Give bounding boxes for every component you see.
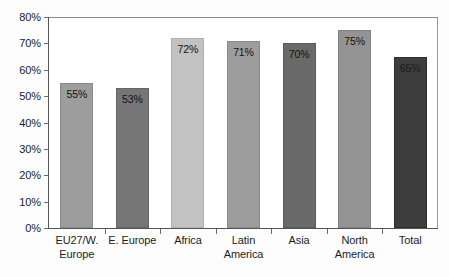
x-axis-line bbox=[48, 228, 438, 229]
x-axis-category-label-line: Africa bbox=[160, 234, 216, 248]
y-axis-tick-label: 0% bbox=[25, 222, 41, 234]
y-axis-labels: 0%10%20%30%40%50%60%70%80% bbox=[0, 10, 44, 234]
y-axis-tick-label: 20% bbox=[19, 169, 41, 181]
x-axis-category-label-line: Europe bbox=[49, 248, 105, 262]
y-axis-tick-mark bbox=[44, 149, 48, 150]
x-axis-category-label: LatinAmerica bbox=[216, 234, 272, 261]
x-axis-tick-mark bbox=[382, 229, 383, 234]
y-axis-tick-mark bbox=[44, 96, 48, 97]
y-axis-tick-label: 50% bbox=[19, 90, 41, 102]
x-axis-category-label-line: North bbox=[327, 234, 383, 248]
bar-value-label: 71% bbox=[228, 46, 259, 58]
bar[interactable]: 75% bbox=[338, 30, 371, 228]
bar[interactable]: 71% bbox=[227, 41, 260, 228]
bar-chart: 0%10%20%30%40%50%60%70%80% 55%53%72%71%7… bbox=[0, 0, 449, 277]
bar[interactable]: 72% bbox=[171, 38, 204, 228]
bar-value-label: 75% bbox=[339, 35, 370, 47]
bar-slot: 70% bbox=[271, 17, 327, 228]
x-axis-category-label: Total bbox=[382, 234, 438, 248]
bar-slot: 75% bbox=[327, 17, 383, 228]
y-axis-tick-mark bbox=[44, 202, 48, 203]
y-axis-tick-mark bbox=[44, 17, 48, 18]
bar-slot: 72% bbox=[160, 17, 216, 228]
y-axis-tick-label: 10% bbox=[19, 196, 41, 208]
y-axis-tick-label: 70% bbox=[19, 37, 41, 49]
x-axis-category-label-line: America bbox=[216, 248, 272, 262]
x-axis-tick-mark bbox=[327, 229, 328, 234]
y-axis-tick-label: 30% bbox=[19, 143, 41, 155]
x-axis-tick-mark bbox=[105, 229, 106, 234]
bar[interactable]: 55% bbox=[60, 83, 93, 228]
bar-slot: 65% bbox=[382, 17, 438, 228]
x-axis-category-label: EU27/W.Europe bbox=[49, 234, 105, 261]
x-axis-category-label-line: America bbox=[327, 248, 383, 262]
x-axis-category-label-line: EU27/W. bbox=[49, 234, 105, 248]
bar-slot: 71% bbox=[216, 17, 272, 228]
bar-value-label: 65% bbox=[395, 62, 426, 74]
x-axis-tick-mark bbox=[160, 229, 161, 234]
x-axis-category-label: Africa bbox=[160, 234, 216, 248]
x-axis-tick-mark bbox=[216, 229, 217, 234]
bar-value-label: 53% bbox=[117, 93, 148, 105]
x-axis-category-label-line: Asia bbox=[271, 234, 327, 248]
bar[interactable]: 65% bbox=[394, 57, 427, 228]
bar-value-label: 70% bbox=[284, 48, 315, 60]
bar-slot: 55% bbox=[49, 17, 105, 228]
x-axis-category-label-line: E. Europe bbox=[105, 234, 161, 248]
bar-value-label: 55% bbox=[61, 88, 92, 100]
y-axis-tick-mark bbox=[44, 123, 48, 124]
y-axis-tick-mark bbox=[44, 228, 48, 229]
bar-value-label: 72% bbox=[172, 43, 203, 55]
x-axis-category-label: E. Europe bbox=[105, 234, 161, 248]
x-axis-category-label: Asia bbox=[271, 234, 327, 248]
y-axis-tick-mark bbox=[44, 70, 48, 71]
bar[interactable]: 70% bbox=[283, 43, 316, 228]
bar-slot: 53% bbox=[105, 17, 161, 228]
x-axis-category-label: NorthAmerica bbox=[327, 234, 383, 261]
x-axis-category-label-line: Latin bbox=[216, 234, 272, 248]
y-axis-tick-mark bbox=[44, 175, 48, 176]
y-axis-tick-mark bbox=[44, 43, 48, 44]
y-axis-tick-label: 60% bbox=[19, 64, 41, 76]
x-axis-category-label-line: Total bbox=[382, 234, 438, 248]
y-axis-tick-label: 40% bbox=[19, 117, 41, 129]
y-axis-tick-label: 80% bbox=[19, 11, 41, 23]
x-axis-tick-mark bbox=[271, 229, 272, 234]
bars-container: 55%53%72%71%70%75%65% bbox=[49, 17, 438, 228]
x-axis-category-labels: EU27/W.EuropeE. EuropeAfricaLatinAmerica… bbox=[49, 234, 438, 274]
bar[interactable]: 53% bbox=[116, 88, 149, 228]
